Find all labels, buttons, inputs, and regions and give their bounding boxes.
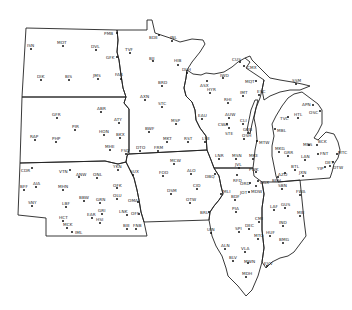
station-label: YIP xyxy=(317,166,324,171)
station-label: SNY xyxy=(28,200,37,205)
station-label: IND xyxy=(279,220,287,225)
station-label: OLU xyxy=(113,193,122,198)
station-label: HYR xyxy=(207,87,216,92)
station-label: BCK xyxy=(318,139,327,144)
station-label: OFF xyxy=(131,211,139,216)
station-label: VLA xyxy=(241,246,249,251)
station-label: AXN xyxy=(140,94,149,99)
station-label: LSE xyxy=(202,136,210,141)
station-label: LNK xyxy=(119,209,128,214)
station-label: IWD xyxy=(220,73,229,78)
station-label: HCT xyxy=(59,215,68,220)
station-label: MOT xyxy=(57,40,67,45)
station-label: MDH xyxy=(242,271,252,276)
station-label: ABR xyxy=(97,106,106,111)
station-label: SPI xyxy=(235,226,242,231)
station-label: OSH xyxy=(242,133,251,138)
station-label: DLH xyxy=(182,67,191,72)
station-label: FNB xyxy=(133,223,142,228)
station-label: JMS xyxy=(93,73,101,78)
station-label: MKE xyxy=(249,153,258,158)
station-label: FRM xyxy=(154,145,163,150)
station-label: CLI xyxy=(240,118,247,123)
station-label: CDR xyxy=(21,168,30,173)
station-label: PIR xyxy=(72,124,79,129)
station-label: IMT xyxy=(240,90,248,95)
station-label: MTO xyxy=(254,233,264,238)
station-label: BWF xyxy=(145,126,155,131)
station-label: JXN xyxy=(299,170,307,175)
station-label: DTW xyxy=(333,165,343,170)
station-label: SUX xyxy=(130,169,139,174)
station-label: BBW xyxy=(79,195,89,200)
station-label: FOD xyxy=(159,170,168,175)
station-label: ONL xyxy=(93,172,102,177)
station-label: DSM xyxy=(167,188,177,193)
station-label: STC xyxy=(158,101,166,106)
station-label: YKN xyxy=(113,164,122,169)
station-label: DTO xyxy=(136,145,145,150)
station-label: JVL xyxy=(235,162,242,167)
station-label: UIN xyxy=(207,227,215,232)
station-label: DBQ xyxy=(205,174,215,179)
station-label: GFK xyxy=(106,55,115,60)
station-label: STE xyxy=(225,131,233,136)
station-label: AUW xyxy=(225,112,235,117)
station-label: MHN xyxy=(58,184,68,189)
station-label: MTC xyxy=(338,150,347,155)
station-label: MLI xyxy=(223,189,230,194)
illinois-border xyxy=(209,168,264,296)
station-label: CGX xyxy=(260,180,269,185)
midwest-station-map: PMBISNMOTDVLGFKTVFDIKBISJMSFARBDEINLBJIH… xyxy=(0,0,352,310)
station-label: CMX xyxy=(247,65,257,70)
station-label: MSN xyxy=(232,153,242,158)
station-label: HTL xyxy=(294,112,302,117)
station-label: RAP xyxy=(30,134,38,139)
station-label: EAR xyxy=(87,212,96,217)
station-label: EAU xyxy=(198,113,207,118)
station-label: LAN xyxy=(301,154,310,159)
station-label: LAF xyxy=(270,204,278,209)
station-label: GFR xyxy=(52,112,61,117)
station-label: MQT xyxy=(245,79,255,84)
station-label: FSD xyxy=(121,148,130,153)
station-label: LNR xyxy=(215,153,224,158)
station-label: GRI xyxy=(98,208,106,213)
station-label: ALO xyxy=(187,168,196,173)
station-label: CID xyxy=(193,183,201,188)
station-label: CWA xyxy=(218,122,228,127)
station-label: HON xyxy=(99,129,109,134)
minnesota-border xyxy=(117,20,207,154)
station-label: MCW xyxy=(170,158,181,163)
station-label: CUS xyxy=(232,57,241,62)
station-label: DEC xyxy=(245,223,254,228)
station-label: OTW xyxy=(186,197,196,202)
station-label: ISN xyxy=(27,43,34,48)
station-label: MCK xyxy=(63,222,73,227)
station-label: MSP xyxy=(171,118,180,123)
station-label: DVL xyxy=(91,44,100,49)
station-label: MBS xyxy=(303,142,312,147)
station-label: HSI xyxy=(96,217,103,222)
station-label: BIS xyxy=(65,74,72,79)
station-label: GUS xyxy=(281,202,290,207)
station-label: BRD xyxy=(158,80,167,85)
station-label: ATY xyxy=(114,117,122,122)
station-label: BRL xyxy=(200,210,208,215)
station-label: LBF xyxy=(62,201,70,206)
station-label: VTN xyxy=(59,169,68,174)
station-label: MIE xyxy=(297,210,305,215)
station-label: BJI xyxy=(149,56,155,61)
station-label: GRN xyxy=(96,197,106,202)
station-label: OSC xyxy=(309,110,318,115)
station-label: MKT xyxy=(163,136,172,141)
station-label: IML xyxy=(75,230,82,235)
station-label: RHI xyxy=(224,97,232,102)
station-label: OFK xyxy=(113,183,122,188)
station-label: TVF xyxy=(125,47,133,52)
station-label: MWN xyxy=(244,259,255,264)
station-label: BTL xyxy=(291,164,299,169)
station-label: BKX xyxy=(116,132,125,137)
station-label: HUF xyxy=(266,230,275,235)
station-label: BFF xyxy=(20,184,28,189)
